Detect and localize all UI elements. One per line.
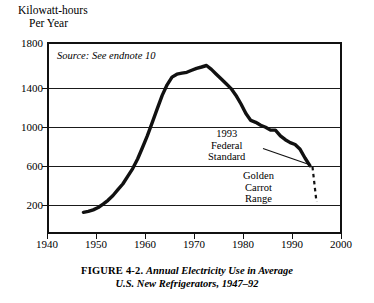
- source-note: Source: See endnote 10: [57, 50, 155, 61]
- annotation-carrot-line3: Range: [243, 193, 274, 205]
- x-tick-label-2000: 2000: [321, 238, 361, 250]
- annotation-federal-line2: Federal: [208, 140, 245, 152]
- y-axis-title-line2: Per Year: [29, 17, 88, 30]
- x-tick-label-1950: 1950: [76, 238, 116, 250]
- y-axis-title: Kilowatt-hours Per Year: [18, 4, 88, 30]
- y-tick-label-1800: 1800: [3, 37, 43, 49]
- y-tick-label-1400: 1400: [3, 82, 43, 94]
- annotation-federal-line1: 1993: [208, 128, 245, 140]
- caption-title-line2: U.S. New Refrigerators, 1947–92: [0, 277, 374, 290]
- annotation-golden-carrot: Golden Carrot Range: [243, 170, 274, 205]
- annotation-carrot-line1: Golden: [243, 170, 274, 182]
- y-tick-label-600: 600: [3, 160, 43, 172]
- figure-caption: FIGURE 4-2. Annual Electricity Use in Av…: [0, 264, 374, 290]
- y-tick-label-1000: 1000: [3, 121, 43, 133]
- annotation-carrot-line2: Carrot: [243, 182, 274, 194]
- caption-figure-number: FIGURE 4-2.: [81, 265, 143, 276]
- y-tick-label-200: 200: [3, 199, 43, 211]
- x-tick-label-1970: 1970: [174, 238, 214, 250]
- x-tick-label-1940: 1940: [27, 238, 67, 250]
- caption-line-1: FIGURE 4-2. Annual Electricity Use in Av…: [0, 264, 374, 277]
- x-tick-label-1990: 1990: [272, 238, 312, 250]
- x-tick-label-1980: 1980: [223, 238, 263, 250]
- plot-area: [47, 42, 342, 234]
- annotation-federal-standard: 1993 Federal Standard: [208, 128, 245, 163]
- figure-container: Kilowatt-hours Per Year 1800 1400 1000 6…: [0, 0, 374, 303]
- data-layer: [49, 44, 340, 232]
- y-axis-title-line1: Kilowatt-hours: [18, 4, 88, 17]
- series-line-refrigerator-electricity: [83, 66, 310, 213]
- caption-title-line1: Annual Electricity Use in Average: [146, 265, 293, 276]
- annotation-federal-line3: Standard: [208, 151, 245, 163]
- x-tick-label-1960: 1960: [125, 238, 165, 250]
- golden-carrot-dashed-line: [313, 167, 317, 202]
